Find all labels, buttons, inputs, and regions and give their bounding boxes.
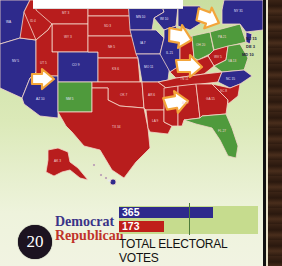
- republican-bar: 173: [119, 221, 164, 232]
- book-page: WA NV 5 ID 4 MT 3 WY 3 UT 5 AZ 10 CO 9 N…: [0, 0, 263, 266]
- svg-text:KS 6: KS 6: [112, 67, 119, 71]
- svg-text:AK 3: AK 3: [54, 159, 61, 163]
- label-md: MD 10: [242, 52, 255, 57]
- state-kansas: [98, 58, 140, 82]
- svg-text:MT 3: MT 3: [62, 11, 69, 15]
- svg-text:TN 11: TN 11: [180, 77, 189, 81]
- svg-text:NM 5: NM 5: [66, 97, 74, 101]
- svg-text:NE 5: NE 5: [108, 45, 115, 49]
- label-nj: NJ 15: [246, 36, 257, 41]
- svg-text:AZ 10: AZ 10: [36, 97, 45, 101]
- svg-text:UT 5: UT 5: [40, 61, 47, 65]
- svg-text:CO 9: CO 9: [72, 63, 80, 67]
- legend-republican-label: Republican: [55, 229, 123, 243]
- svg-text:LA 9: LA 9: [152, 119, 159, 123]
- svg-text:VA 13: VA 13: [228, 59, 236, 63]
- page-number-badge: 20: [18, 225, 52, 259]
- chart-caption: TOTAL ELECTORAL VOTES: [119, 237, 263, 265]
- svg-text:OK 7: OK 7: [120, 93, 127, 97]
- svg-text:FL 27: FL 27: [218, 129, 226, 133]
- svg-text:ID 4: ID 4: [30, 19, 36, 23]
- svg-text:IL 21: IL 21: [166, 51, 173, 55]
- state-alaska: [46, 148, 88, 180]
- svg-text:SC 8: SC 8: [220, 89, 227, 93]
- label-de: DE 3: [246, 44, 256, 49]
- majority-threshold-line: [189, 203, 190, 235]
- svg-text:AL 9: AL 9: [182, 101, 189, 105]
- svg-text:SD 3: SD 3: [104, 24, 111, 28]
- state-new-mexico: [58, 82, 92, 112]
- svg-text:NV 5: NV 5: [12, 59, 19, 63]
- legend-democrat-label: Democrat: [55, 215, 114, 229]
- svg-text:WI 10: WI 10: [160, 17, 169, 21]
- svg-text:NY 31: NY 31: [234, 9, 243, 13]
- svg-text:TX 34: TX 34: [112, 125, 121, 129]
- svg-text:AR 6: AR 6: [148, 93, 155, 97]
- svg-text:WV 5: WV 5: [214, 55, 222, 59]
- svg-text:HI: HI: [108, 179, 111, 183]
- svg-text:WA: WA: [6, 20, 12, 24]
- svg-text:MN 10: MN 10: [136, 15, 146, 19]
- state-colorado: [58, 52, 98, 82]
- wood-background: [268, 0, 282, 266]
- svg-text:GA 15: GA 15: [206, 97, 215, 101]
- electoral-map: WA NV 5 ID 4 MT 3 WY 3 UT 5 AZ 10 CO 9 N…: [0, 0, 263, 200]
- svg-text:NC 15: NC 15: [226, 77, 235, 81]
- state-florida: [184, 114, 238, 158]
- svg-text:MO 11: MO 11: [144, 65, 154, 69]
- state-iowa: [130, 30, 164, 54]
- democrat-bar: 365: [119, 207, 213, 218]
- svg-text:WY 3: WY 3: [64, 35, 72, 39]
- svg-text:OH 20: OH 20: [196, 43, 205, 47]
- caption-box: [33, 0, 183, 9]
- svg-text:PA 21: PA 21: [218, 35, 226, 39]
- svg-text:IA 7: IA 7: [140, 41, 146, 45]
